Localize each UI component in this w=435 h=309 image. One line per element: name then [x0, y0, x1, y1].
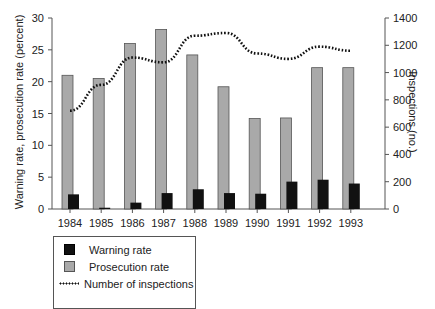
warning-bar: [286, 182, 297, 209]
prosecution-swatch-icon: [64, 261, 75, 272]
left-tick-label: 20: [32, 76, 44, 88]
x-tick-label: 1984: [58, 217, 82, 229]
x-tick-label: 1993: [339, 217, 363, 229]
x-tick-label: 1990: [245, 217, 269, 229]
warning-bar: [349, 184, 360, 209]
prosecution-bar: [93, 78, 104, 209]
legend-label: Warning rate: [89, 244, 152, 256]
prosecution-bar: [218, 87, 229, 209]
warning-bar: [162, 193, 173, 209]
left-tick-label: 15: [32, 108, 44, 120]
prosecution-bar: [187, 55, 198, 209]
legend: Warning rate Prosecution rate Number of …: [53, 236, 196, 309]
x-tick-label: 1989: [214, 217, 238, 229]
x-tick-label: 1985: [89, 217, 113, 229]
legend-label: Number of inspections: [84, 278, 193, 290]
right-axis-title: Inspections (no.): [407, 71, 419, 152]
left-tick-label: 0: [38, 203, 44, 215]
warning-bar: [99, 208, 110, 209]
warning-swatch-icon: [64, 244, 75, 255]
left-axis-title: Warning rate, prosecution rate (percent): [13, 15, 25, 210]
warning-bar: [130, 203, 141, 209]
warning-bar: [193, 189, 204, 209]
legend-item-inspections: Number of inspections: [64, 275, 195, 292]
left-tick-label: 10: [32, 139, 44, 151]
legend-label: Prosecution rate: [89, 261, 169, 273]
right-tick-label: 200: [393, 176, 411, 188]
x-tick-label: 1988: [183, 217, 207, 229]
prosecution-bar: [124, 43, 135, 209]
prosecution-bar: [156, 29, 167, 209]
left-tick-label: 5: [38, 171, 44, 183]
left-y-axis: 051015202530: [32, 12, 52, 215]
inspections-line: [70, 33, 351, 111]
x-axis: 1984198519861987198819891990199119921993: [52, 209, 385, 229]
right-tick-label: 0: [393, 203, 399, 215]
x-tick-label: 1986: [120, 217, 144, 229]
warning-bar: [318, 180, 329, 209]
bars-group: [62, 29, 360, 209]
legend-item-warning: Warning rate: [64, 241, 195, 258]
inspections-dotted-line: [70, 33, 351, 111]
left-tick-label: 30: [32, 12, 44, 24]
x-tick-label: 1992: [307, 217, 331, 229]
x-tick-label: 1991: [276, 217, 300, 229]
x-tick-label: 1987: [151, 217, 175, 229]
legend-item-prosecution: Prosecution rate: [64, 258, 195, 275]
dotted-line-icon: [59, 282, 79, 285]
warning-bar: [68, 194, 79, 209]
right-tick-label: 1400: [393, 12, 417, 24]
prosecution-bar: [62, 75, 73, 209]
right-tick-label: 1200: [393, 39, 417, 51]
left-tick-label: 25: [32, 44, 44, 56]
warning-bar: [224, 193, 235, 209]
warning-bar: [255, 194, 266, 209]
